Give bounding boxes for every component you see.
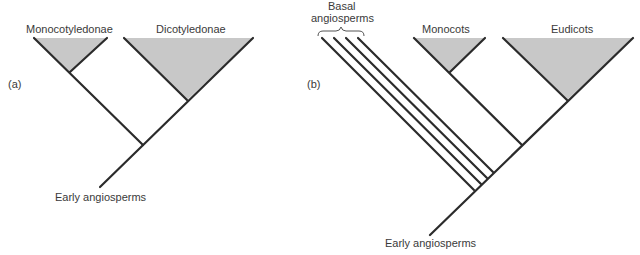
basal-lineage-3 xyxy=(346,38,487,178)
basal-lineage-4 xyxy=(358,38,493,172)
panel-label-b: (b) xyxy=(307,78,320,90)
clade-label-monocotyledonae: Monocotyledonae xyxy=(26,23,113,35)
clade-label-eudicots: Eudicots xyxy=(551,23,593,35)
dicotyledonae-triangle xyxy=(124,38,253,100)
basal-angiosperms-label-line2: angiosperms xyxy=(311,12,374,24)
root-label-b: Early angiosperms xyxy=(385,237,476,249)
basal-angiosperms-brace xyxy=(318,27,364,36)
clade-label-dicotyledonae: Dicotyledonae xyxy=(156,23,226,35)
tree-b xyxy=(322,38,633,235)
eudicots-triangle xyxy=(503,38,633,100)
monocotyledonae-triangle xyxy=(34,38,107,72)
clade-label-monocots: Monocots xyxy=(422,23,470,35)
basal-angiosperms-label-line1: Basal xyxy=(328,0,356,12)
monocots-triangle xyxy=(414,38,485,72)
main-trunk-to-root xyxy=(430,38,633,235)
root-label-a: Early angiosperms xyxy=(55,191,146,203)
panel-label-a: (a) xyxy=(8,78,21,90)
phylogeny-diagram xyxy=(0,0,640,255)
tree-a xyxy=(34,38,253,187)
